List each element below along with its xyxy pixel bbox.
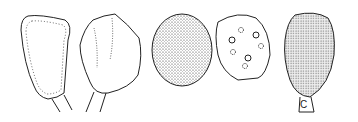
seed-2 bbox=[80, 14, 141, 112]
panel-label: C bbox=[300, 99, 307, 110]
seed-1 bbox=[21, 16, 72, 113]
seed-c bbox=[285, 13, 335, 112]
spore-with-pores bbox=[216, 15, 270, 80]
spiny-spore bbox=[152, 14, 212, 86]
